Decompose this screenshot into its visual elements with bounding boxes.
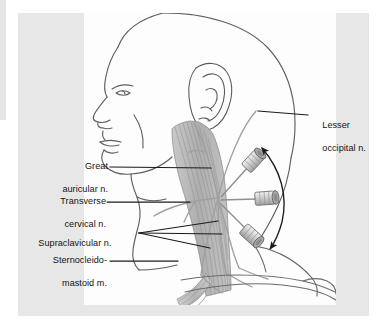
ear (189, 63, 232, 129)
label-lesser-occipital-line2: occipital n. (322, 143, 366, 153)
label-great-auricular-line1: Great (85, 161, 108, 171)
label-lesser-occipital: Lesser occipital n. (312, 109, 384, 165)
leader-lesser-occipital (258, 111, 308, 115)
label-sternocleidomastoid-line2: mastoid m. (62, 278, 107, 288)
label-lesser-occipital-line1: Lesser (322, 120, 350, 130)
label-sternocleidomastoid-line1: Sternocleido- (53, 255, 107, 265)
figure-root: Great auricular n. Transverse cervical n… (0, 0, 387, 329)
needle-middle (221, 190, 279, 205)
label-transverse-cervical-line1: Transverse (60, 196, 106, 206)
label-sternocleidomastoid: Sternocleido- mastoid m. (18, 244, 107, 300)
needle-upper (221, 146, 268, 197)
